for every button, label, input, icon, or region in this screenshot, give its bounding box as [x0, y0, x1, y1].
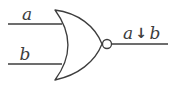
- input-label-b: b: [20, 44, 31, 64]
- nor-gate-schematic-canvas: a b a ↓ b: [0, 0, 173, 103]
- nor-arrow-operator-icon: ↓: [135, 25, 147, 41]
- or-gate-body: [55, 10, 102, 80]
- labels-group: a b a ↓ b: [20, 4, 161, 64]
- input-label-a: a: [22, 4, 32, 24]
- output-label-var2: b: [150, 23, 161, 43]
- inversion-bubble-icon: [103, 40, 112, 49]
- output-label-var1: a: [123, 23, 133, 43]
- nor-gate-diagram: a b a ↓ b: [0, 0, 173, 103]
